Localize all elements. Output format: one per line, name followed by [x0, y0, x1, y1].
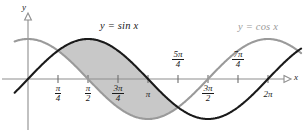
trig-plot-svg	[0, 0, 306, 132]
x-tick-label-pi: π	[141, 84, 155, 100]
x-tick-label-pi-over-2: π2	[80, 84, 96, 104]
y-axis-label: y	[22, 3, 26, 12]
tick-value: π	[146, 90, 151, 99]
fraction-denominator: 4	[232, 60, 243, 69]
fraction-denominator: 2	[202, 94, 213, 103]
fraction-denominator: 4	[55, 94, 62, 103]
fraction-denominator: 2	[85, 94, 92, 103]
x-tick-label-pi-over-4: π4	[50, 84, 66, 104]
x-tick-label-3pi-over-4: 3π4	[110, 84, 126, 104]
x-tick-label-7pi-over-4: 7π4	[230, 50, 246, 70]
tick-value: 2π	[263, 90, 272, 99]
fraction-denominator: 4	[112, 94, 123, 103]
x-tick-label-2pi: 2π	[261, 84, 275, 100]
sin-function-label: y = sin x	[100, 21, 138, 32]
x-axis-label: x	[294, 73, 298, 82]
fraction-denominator: 4	[172, 60, 183, 69]
cos-function-label: y = cos x	[238, 22, 278, 33]
y-axis-arrowhead	[25, 13, 32, 20]
x-axis-arrowhead	[284, 76, 291, 83]
x-tick-label-5pi-over-4: 5π4	[170, 50, 186, 70]
trig-graph-figure: y x y = sin x y = cos x π4π23π4π5π43π27π…	[0, 0, 306, 132]
x-tick-label-3pi-over-2: 3π2	[200, 84, 216, 104]
